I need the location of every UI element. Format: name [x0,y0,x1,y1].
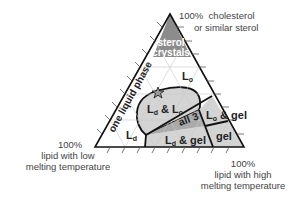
bottom-right-line1: lipid with high [193,169,293,180]
top-vertex-percent: 100% [179,10,203,21]
bottom-right-line2: melting temperature [193,180,293,191]
lo-gel-label: Lo & gel [206,109,247,122]
bottom-left-vertex-label: 100% lipid with low melting temperature [18,139,118,172]
bottom-right-percent: 100% [193,158,293,169]
ld-label: Ld [126,129,137,142]
top-vertex-label-line2: or similar sterol [194,22,258,33]
bottom-right-vertex-label: 100% lipid with high melting temperature [193,158,293,191]
bottom-left-line2: melting temperature [18,161,118,172]
bottom-left-percent: 100% [18,139,118,150]
ld-gel-label: Ld & gel [165,134,206,147]
top-vertex-label: 100% cholesterol [179,10,255,21]
ld-lo-label: Ld & Lo [147,103,183,116]
gel-label: gel [216,130,232,142]
top-vertex-line1: cholesterol [209,10,255,21]
crystals-label: crystals [152,47,190,58]
bottom-left-line1: lipid with low [18,150,118,161]
lo-label: Lo [182,70,193,83]
